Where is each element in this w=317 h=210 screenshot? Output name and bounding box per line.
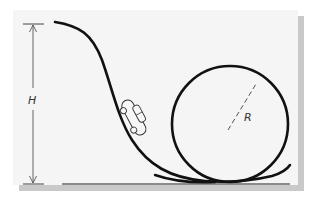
diagram-stage: H R (0, 0, 317, 210)
radius-label: R (244, 111, 252, 124)
loop-the-loop-diagram: H R (0, 0, 317, 210)
track-curve (55, 22, 290, 182)
height-label: H (28, 94, 36, 107)
radius-dimension: R (228, 84, 256, 130)
height-dimension: H (23, 24, 44, 184)
loop-circle (172, 66, 288, 182)
